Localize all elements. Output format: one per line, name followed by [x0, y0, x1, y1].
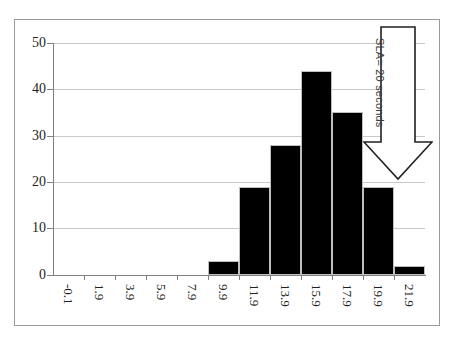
y-tick-label-0: 0: [16, 268, 46, 282]
x-tick-label-17.9: 17.9: [340, 284, 354, 298]
x-tick-mark-1: [115, 275, 116, 280]
bar-17.9: [332, 112, 363, 275]
bar-9.9: [208, 261, 239, 275]
x-tick-label-15.9: 15.9: [309, 284, 323, 298]
gridline-40: [53, 89, 425, 90]
x-tick-label-11.9: 11.9: [247, 284, 261, 298]
y-tick-label-10: 10: [16, 221, 46, 235]
x-tick-mark-2: [146, 275, 147, 280]
y-axis-labels: 50 40 30 20 10 0: [8, 0, 46, 343]
x-tick-label-9.9: 9.9: [216, 284, 230, 298]
x-tick-mark-9: [363, 275, 364, 280]
x-tick-label-21.9: 21.9: [402, 284, 416, 298]
x-tick-mark-8: [332, 275, 333, 280]
y-tick-label-50: 50: [16, 36, 46, 50]
x-tick-mark-5: [239, 275, 240, 280]
gridline-20: [53, 182, 425, 183]
x-tick-mark-10: [394, 275, 395, 280]
bar-11.9: [239, 187, 270, 275]
x-tick-label--0.1: -0.1: [61, 284, 75, 298]
y-tick-label-20: 20: [16, 175, 46, 189]
histogram-chart: 50 40 30 20 10 0 -0.1 1.9 3.: [0, 0, 452, 343]
bar-13.9: [270, 145, 301, 275]
x-tick-label-13.9: 13.9: [278, 284, 292, 298]
plot-area: [53, 43, 425, 275]
y-tick-label-40: 40: [16, 82, 46, 96]
gridline-30: [53, 136, 425, 137]
bar-15.9: [301, 71, 332, 275]
x-tick-mark-4: [208, 275, 209, 280]
x-tick-mark-7: [301, 275, 302, 280]
y-axis-line: [53, 43, 54, 276]
sla-annotation-label: SLA= 20 seconds: [374, 38, 386, 128]
bar-21.9: [394, 266, 425, 275]
x-tick-label-7.9: 7.9: [185, 284, 199, 298]
y-tick-label-30: 30: [16, 129, 46, 143]
x-tick-label-19.9: 19.9: [371, 284, 385, 298]
gridline-50: [53, 43, 425, 44]
bar-19.9: [363, 187, 394, 275]
x-tick-mark-0: [84, 275, 85, 280]
x-tick-label-3.9: 3.9: [123, 284, 137, 298]
x-tick-mark-6: [270, 275, 271, 280]
x-tick-label-5.9: 5.9: [154, 284, 168, 298]
x-tick-label-1.9: 1.9: [92, 284, 106, 298]
x-tick-mark-3: [177, 275, 178, 280]
